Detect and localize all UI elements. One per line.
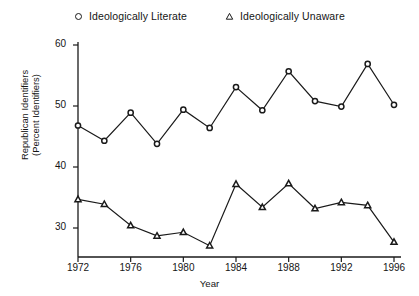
data-point-circle bbox=[154, 141, 159, 146]
data-point-circle bbox=[102, 138, 107, 143]
data-point-triangle bbox=[233, 181, 239, 187]
data-point-triangle bbox=[338, 199, 344, 205]
data-point-triangle bbox=[154, 233, 160, 239]
data-point-circle bbox=[339, 104, 344, 109]
data-point-triangle bbox=[365, 202, 371, 208]
series-line bbox=[78, 183, 394, 245]
data-point-circle bbox=[391, 102, 396, 107]
data-point-circle bbox=[365, 61, 370, 66]
data-point-triangle bbox=[207, 242, 213, 248]
data-point-triangle bbox=[180, 229, 186, 235]
plot-area bbox=[0, 0, 419, 296]
data-point-circle bbox=[260, 108, 265, 113]
data-point-circle bbox=[312, 99, 317, 104]
chart-figure: Ideologically Literate Ideologically Una… bbox=[0, 0, 419, 296]
data-point-triangle bbox=[101, 201, 107, 207]
data-point-circle bbox=[181, 107, 186, 112]
series-line bbox=[78, 64, 394, 144]
series-1 bbox=[75, 61, 396, 146]
data-point-circle bbox=[286, 69, 291, 74]
data-point-circle bbox=[207, 125, 212, 130]
series-2 bbox=[75, 180, 397, 248]
data-point-triangle bbox=[286, 180, 292, 186]
data-point-circle bbox=[233, 84, 238, 89]
data-point-circle bbox=[75, 123, 80, 128]
data-point-triangle bbox=[75, 196, 81, 202]
data-point-circle bbox=[128, 110, 133, 115]
